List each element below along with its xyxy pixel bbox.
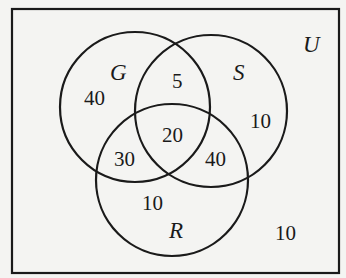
region-g-only: 40 (84, 86, 105, 110)
region-outside: 10 (275, 221, 296, 245)
set-label-g: G (110, 60, 127, 85)
venn-diagram: U G S R 40 5 10 20 30 40 10 10 (0, 0, 346, 278)
region-s-r-only: 40 (205, 147, 226, 171)
region-r-only: 10 (142, 191, 163, 215)
region-s-only: 10 (250, 109, 271, 133)
region-g-s-r: 20 (162, 123, 183, 147)
region-g-s-only: 5 (172, 69, 183, 93)
set-label-r: R (168, 218, 183, 243)
universe-label: U (303, 32, 321, 57)
set-label-s: S (233, 60, 245, 85)
region-g-r-only: 30 (114, 147, 135, 171)
